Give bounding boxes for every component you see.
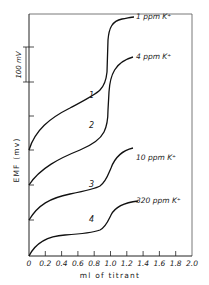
svg-text:1.4: 1.4 bbox=[137, 259, 149, 268]
curve-320-ppm bbox=[29, 201, 138, 256]
series-label-1-ppm: 1 ppm K⁺ bbox=[136, 12, 171, 21]
y-ticks bbox=[29, 47, 34, 220]
curve-4-ppm bbox=[29, 57, 133, 185]
titration-chart: 100 mV 0 0.2 0.4 0.6 0.8 1.0 1.2 1.4 1.6… bbox=[0, 0, 209, 285]
x-axis-label: ml of titrant bbox=[80, 271, 140, 280]
scale-bar-label: 100 mV bbox=[15, 50, 23, 78]
x-tick-labels: 0 0.2 0.4 0.6 0.8 1.0 1.2 1.4 1.6 1.8 2.… bbox=[27, 259, 199, 268]
curve-number-3: 3 bbox=[89, 180, 94, 189]
scale-bar: 100 mV bbox=[15, 47, 29, 82]
series-labels: 1 ppm K⁺ 4 ppm K⁺ 10 ppm K⁺ 320 ppm K⁺ bbox=[136, 12, 181, 205]
curve-number-4: 4 bbox=[89, 215, 94, 224]
x-ticks bbox=[45, 251, 175, 256]
curve-1-ppm bbox=[29, 17, 134, 150]
y-axis-label: EMF (mv) bbox=[12, 137, 21, 182]
curve-10-ppm bbox=[29, 148, 133, 220]
svg-text:0.8: 0.8 bbox=[88, 259, 100, 268]
svg-text:1.0: 1.0 bbox=[105, 259, 117, 268]
svg-text:1.8: 1.8 bbox=[170, 259, 182, 268]
svg-text:2.0: 2.0 bbox=[186, 259, 198, 268]
series-label-320-ppm: 320 ppm K⁺ bbox=[136, 196, 181, 205]
svg-text:0.4: 0.4 bbox=[56, 259, 68, 268]
curve-number-2: 2 bbox=[89, 121, 94, 130]
svg-text:0: 0 bbox=[27, 259, 32, 268]
curve-numbers: 1 2 3 4 bbox=[89, 91, 94, 224]
series-label-10-ppm: 10 ppm K⁺ bbox=[136, 153, 176, 162]
svg-text:0.2: 0.2 bbox=[39, 259, 51, 268]
svg-text:0.6: 0.6 bbox=[72, 259, 84, 268]
curve-number-1: 1 bbox=[89, 91, 94, 100]
svg-text:1.6: 1.6 bbox=[153, 259, 165, 268]
series-label-4-ppm: 4 ppm K⁺ bbox=[136, 52, 171, 61]
svg-text:1.2: 1.2 bbox=[121, 259, 133, 268]
